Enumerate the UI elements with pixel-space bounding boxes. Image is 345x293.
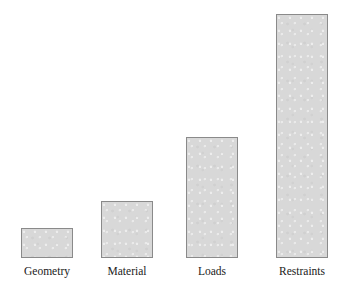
bar-chart: Geometry Material Loads Restraints: [0, 0, 345, 293]
plot-area: Geometry Material Loads Restraints: [0, 0, 345, 293]
bar-geometry[interactable]: [21, 228, 73, 258]
bar-material[interactable]: [101, 201, 153, 258]
bar-label-geometry: Geometry: [24, 265, 70, 278]
bar-restraints[interactable]: [276, 14, 328, 258]
bar-label-material: Material: [108, 265, 147, 278]
bar-label-restraints: Restraints: [279, 265, 325, 278]
bar-loads[interactable]: [186, 137, 238, 258]
bar-label-loads: Loads: [198, 265, 226, 278]
